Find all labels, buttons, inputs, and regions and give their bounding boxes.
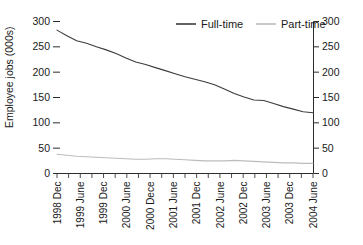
legend-label-part-time: Part-time [281,18,326,30]
y-axis-title: Employee jobs (000s) [3,26,15,128]
x-axis-category-label: 2002 June [215,181,226,228]
x-axis-category-label: 1999 June [75,181,86,228]
y-axis-right-tick-label: 150 [322,91,340,103]
y-axis-right-tick-label: 0 [322,167,328,179]
x-axis-category-label: 2001 Dec [191,182,202,225]
x-axis-category-label: 1998 Dec [52,182,63,225]
x-axis-category-label: 2000 June [121,181,132,228]
line-chart: Employee jobs (000s) 050100150200250300 … [0,0,363,245]
y-axis-left-tick-label: 50 [38,142,50,154]
y-axis-left-tick-label: 200 [32,66,50,78]
y-axis-left-tick-label: 300 [32,15,50,27]
y-axis-left-tick-label: 150 [32,91,50,103]
x-axis-category-label: 2004 June [308,181,319,228]
x-axis-category-label: 2001 June [168,181,179,228]
x-axis-category-label: 2003 Dec [284,182,295,225]
x-axis-category-label: 2003 June [261,181,272,228]
y-axis-left-tick-label: 0 [44,167,50,179]
chart-canvas: Employee jobs (000s) 050100150200250300 … [0,0,363,245]
x-axis-category-label: 1999 Dec [98,182,109,225]
y-axis-right-tick-label: 250 [322,40,340,52]
x-axis-category-label: 2000 Dece [145,181,156,230]
y-axis-right-tick-label: 100 [322,116,340,128]
y-axis-right-tick-label: 50 [322,142,334,154]
x-axis-category-label: 2002 Dec [238,182,249,225]
legend-label-full-time: Full-time [201,18,243,30]
y-axis-left-tick-label: 250 [32,40,50,52]
y-axis-left-tick-label: 100 [32,116,50,128]
y-axis-right-tick-label: 200 [322,66,340,78]
